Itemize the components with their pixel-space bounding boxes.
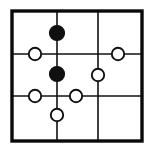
open-node-right-middle[interactable] (92, 69, 104, 81)
open-node-left-lower[interactable] (29, 90, 41, 102)
open-node-bottom-center[interactable] (51, 109, 63, 121)
figure-canvas (0, 0, 156, 156)
filled-node-top-center[interactable] (50, 26, 65, 41)
grid-diagram (0, 0, 156, 156)
figure-background (0, 0, 156, 156)
filled-node-center[interactable] (50, 67, 65, 82)
open-node-right-upper[interactable] (112, 48, 124, 60)
open-node-left-upper[interactable] (29, 48, 41, 60)
open-node-center-lower[interactable] (70, 90, 82, 102)
